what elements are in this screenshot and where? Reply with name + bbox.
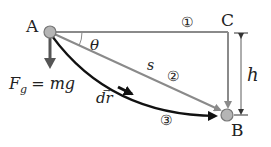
angle-arc-icon — [79, 32, 82, 46]
gravity-arrow-icon — [44, 58, 56, 69]
path-2-marker: ② — [167, 68, 180, 84]
vector-arrow-icon: → — [103, 85, 111, 95]
path-1-marker: ① — [181, 14, 194, 30]
displacement-arrow-icon — [118, 87, 132, 94]
point-a-label: A — [25, 16, 39, 36]
slope-length-label: s — [147, 57, 154, 73]
point-c-label: C — [221, 10, 234, 30]
force-label: Fg= mg — [8, 74, 75, 96]
height-label: h — [247, 64, 259, 85]
ball-a-icon — [44, 26, 56, 38]
point-b-label: B — [231, 120, 244, 140]
work-path-diagram: A C B ① ② ③ θ s h Fg= mg dr → — [0, 0, 271, 147]
angle-label: θ — [90, 36, 99, 54]
path-2-incline — [50, 32, 220, 110]
height-dimension — [234, 33, 248, 115]
path-3-curve — [52, 36, 216, 116]
path-3-marker: ③ — [160, 112, 173, 128]
